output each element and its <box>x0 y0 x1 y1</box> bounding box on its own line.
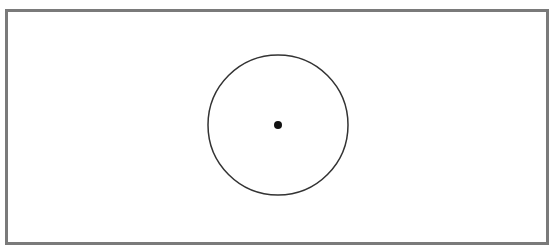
diagram-canvas <box>0 0 553 250</box>
center-point <box>274 121 282 129</box>
